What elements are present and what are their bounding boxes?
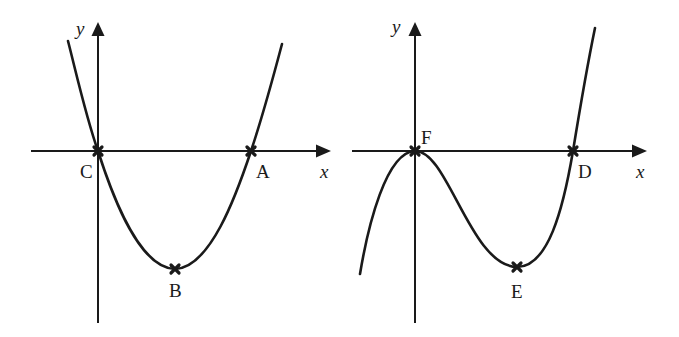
right-y-axis-arrow-icon [409, 22, 422, 36]
curve-sketch-figure: y x C A B y x F D E [0, 0, 679, 337]
point-d-label: D [578, 161, 592, 182]
right-x-axis-label: x [635, 161, 645, 182]
left-y-axis-arrow-icon [92, 22, 105, 36]
right-x-axis-arrow-icon [632, 145, 647, 158]
point-f-label: F [421, 127, 432, 148]
point-e-label: E [511, 281, 523, 302]
left-x-axis-label: x [319, 161, 329, 182]
right-graph: y x F D E [352, 16, 647, 323]
left-x-axis-arrow-icon [316, 145, 331, 158]
point-a-label: A [256, 161, 270, 182]
left-y-axis-label: y [74, 18, 85, 39]
point-b-label: B [169, 280, 182, 301]
left-graph: y x C A B [31, 18, 331, 323]
point-c-label: C [80, 161, 93, 182]
right-y-axis-label: y [390, 16, 401, 37]
